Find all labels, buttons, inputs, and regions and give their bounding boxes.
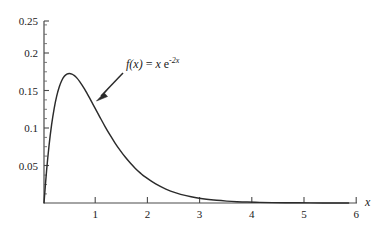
y-tick-label-0-25: 0.25 xyxy=(0,16,38,27)
axes-group xyxy=(44,21,357,203)
chart-figure: 0.25 0.2 0.15 0.1 0.05 1 2 3 4 5 6 x f(x… xyxy=(0,0,382,239)
annotation-arrow xyxy=(97,73,124,101)
x-tick-label-3: 3 xyxy=(185,209,215,220)
x-tick-label-2: 2 xyxy=(132,209,162,220)
annotation-exponent: -2x xyxy=(169,56,179,65)
x-tick-label-5: 5 xyxy=(289,209,319,220)
x-axis-label: x xyxy=(365,196,370,208)
x-tick-label-1: 1 xyxy=(80,209,110,220)
annotation-of-x: (x) xyxy=(129,57,142,71)
x-major-ticks xyxy=(95,197,356,203)
function-curve xyxy=(44,73,349,203)
x-tick-label-6: 6 xyxy=(341,209,371,220)
y-tick-label-0-1: 0.1 xyxy=(0,123,38,134)
y-tick-label-0-05: 0.05 xyxy=(0,161,38,172)
x-tick-label-4: 4 xyxy=(237,209,267,220)
function-annotation-label: f(x) = x e-2x xyxy=(126,58,179,70)
y-tick-label-0-15: 0.15 xyxy=(0,86,38,97)
arrowhead xyxy=(97,88,109,101)
y-tick-label-0-2: 0.2 xyxy=(0,48,38,59)
plot-canvas xyxy=(0,0,382,239)
annotation-equals: = xyxy=(143,57,156,71)
annotation-e: e xyxy=(161,57,169,71)
y-major-ticks xyxy=(44,21,49,166)
